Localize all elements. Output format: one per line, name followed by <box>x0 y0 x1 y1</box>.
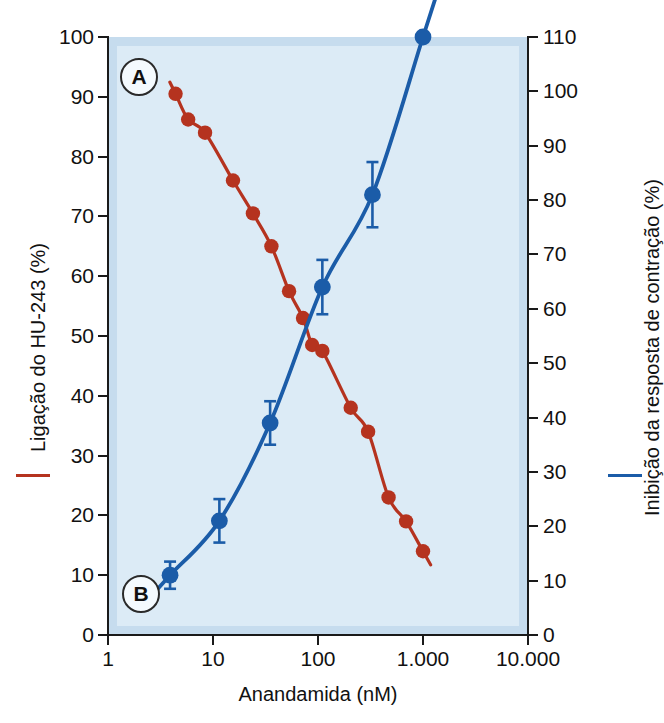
data-point <box>181 112 195 126</box>
data-point <box>415 29 432 46</box>
data-point <box>344 401 358 415</box>
data-point <box>361 424 375 438</box>
data-point <box>262 415 279 432</box>
data-point <box>162 567 179 584</box>
data-point <box>315 344 329 358</box>
panel-label-a: A <box>120 58 158 96</box>
series-inhibition-blue <box>148 0 446 600</box>
y-axis-left-title: Ligação do HU-243 (%) <box>27 198 50 498</box>
data-point <box>314 279 331 296</box>
data-point <box>264 239 278 253</box>
data-point <box>211 512 228 529</box>
y-axis-right-title: Inibição da resposta de contração (%) <box>641 148 664 548</box>
data-point <box>364 186 381 203</box>
data-point <box>168 87 182 101</box>
legend-swatch-blue <box>608 474 642 477</box>
series-binding-red <box>168 82 430 565</box>
data-point <box>246 206 260 220</box>
data-point <box>282 284 296 298</box>
panel-label-b: B <box>122 575 160 613</box>
data-point <box>226 173 240 187</box>
data-point <box>416 544 430 558</box>
x-axis-title: Anandamida (nM) <box>108 683 528 706</box>
series-curve <box>148 0 446 600</box>
data-point <box>399 514 413 528</box>
data-point <box>198 125 212 139</box>
legend-swatch-red <box>16 474 50 477</box>
data-point <box>381 490 395 504</box>
